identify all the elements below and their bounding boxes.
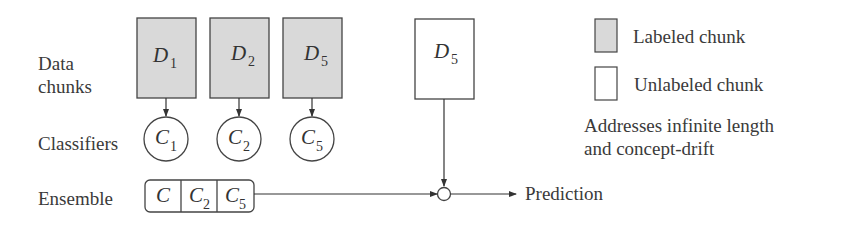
classifier-c5: C 5 [290,117,334,161]
legend-labeled-swatch [595,19,617,52]
ensemble-member-c5: C [225,183,240,207]
data-chunk-d5: D 5 [283,18,342,98]
svg-text:2: 2 [243,139,250,154]
svg-text:5: 5 [321,54,328,69]
legend-unlabeled-text: Unlabeled chunk [634,74,763,96]
svg-text:5: 5 [451,52,458,67]
note-line-1: Addresses infinite length [584,115,774,137]
ensemble-box: C C 2 C 5 [145,180,254,212]
prediction-label: Prediction [525,183,603,205]
junction-node [438,188,451,201]
ensemble-member-c: C [156,183,171,207]
svg-text:D: D [230,41,246,65]
chunk-d1-symbol: D [152,43,168,67]
data-chunk-d1: D 1 [137,18,196,98]
svg-text:C: C [228,125,243,149]
row-label-data: Data [38,53,74,75]
svg-text:C: C [155,125,170,149]
classifier-c1: C 1 [144,117,188,161]
row-label-ensemble: Ensemble [38,188,113,210]
legend-labeled-text: Labeled chunk [633,26,745,48]
svg-text:C: C [301,125,316,149]
svg-text:D: D [303,41,319,65]
svg-text:2: 2 [248,54,255,69]
ensemble-member-c2: C [189,183,204,207]
row-label-classifiers: Classifiers [38,133,118,155]
data-chunk-d2: D 2 [210,18,269,98]
svg-text:1: 1 [170,139,177,154]
new-chunk-d5: D 5 [415,19,474,99]
svg-text:D: D [433,39,449,63]
note-line-2: and concept-drift [584,138,714,160]
svg-text:2: 2 [203,197,210,212]
classifier-c2: C 2 [217,117,261,161]
svg-text:5: 5 [316,139,323,154]
svg-text:1: 1 [170,56,177,71]
legend-unlabeled-swatch [595,67,617,100]
svg-text:5: 5 [239,197,246,212]
row-label-chunks: chunks [38,76,92,98]
